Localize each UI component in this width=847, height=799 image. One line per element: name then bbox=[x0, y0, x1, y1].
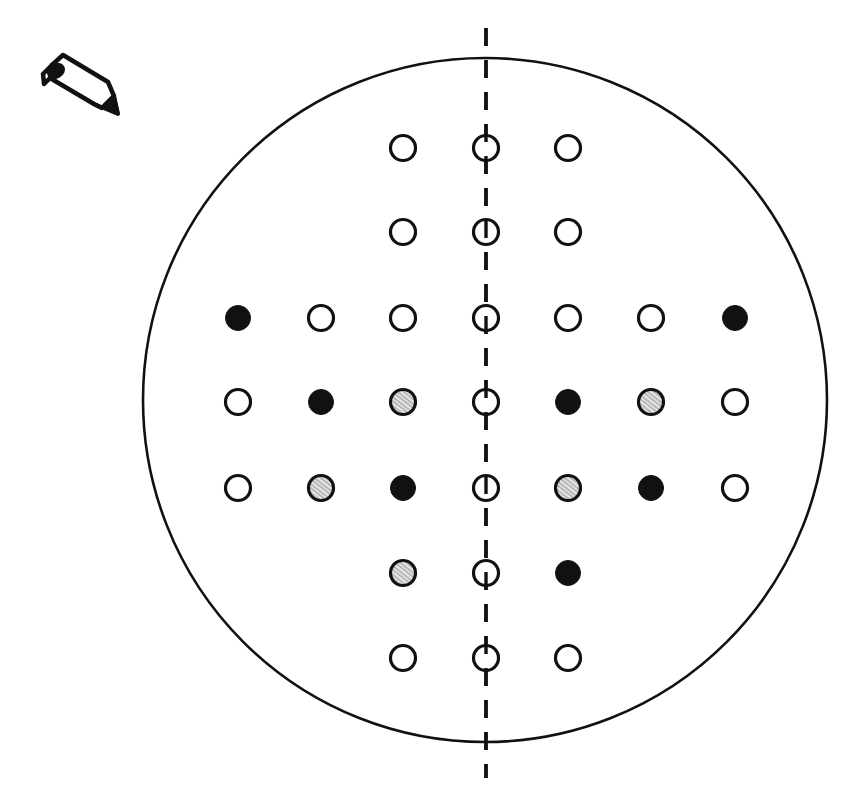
wafer-map-diagram bbox=[0, 0, 847, 799]
die-marker-filled-r5c4[interactable] bbox=[556, 561, 581, 586]
die-marker-hatched-r5c2[interactable] bbox=[391, 561, 416, 586]
die-marker-open-r0c4[interactable] bbox=[556, 136, 581, 161]
die-marker-open-r3c6[interactable] bbox=[723, 390, 748, 415]
die-marker-open-r6c4[interactable] bbox=[556, 646, 581, 671]
pencil-icon bbox=[43, 55, 118, 114]
die-marker-open-r1c4[interactable] bbox=[556, 220, 581, 245]
die-marker-filled-r2c0[interactable] bbox=[226, 306, 251, 331]
pencil-barrel bbox=[50, 55, 114, 108]
die-marker-open-r1c2[interactable] bbox=[391, 220, 416, 245]
die-marker-filled-r3c1[interactable] bbox=[309, 390, 334, 415]
die-marker-open-r0c2[interactable] bbox=[391, 136, 416, 161]
die-marker-hatched-r3c5[interactable] bbox=[639, 390, 664, 415]
die-marker-hatched-r4c1[interactable] bbox=[309, 476, 334, 501]
die-marker-open-r4c6[interactable] bbox=[723, 476, 748, 501]
die-marker-open-r4c0[interactable] bbox=[226, 476, 251, 501]
die-marker-filled-r4c5[interactable] bbox=[639, 476, 664, 501]
die-marker-open-r3c0[interactable] bbox=[226, 390, 251, 415]
die-marker-filled-r3c4[interactable] bbox=[556, 390, 581, 415]
die-marker-filled-r2c6[interactable] bbox=[723, 306, 748, 331]
die-marker-open-r2c4[interactable] bbox=[556, 306, 581, 331]
figure-page bbox=[0, 0, 847, 799]
die-marker-hatched-r4c4[interactable] bbox=[556, 476, 581, 501]
die-marker-open-r6c2[interactable] bbox=[391, 646, 416, 671]
die-marker-open-r2c1[interactable] bbox=[309, 306, 334, 331]
die-marker-filled-r4c2[interactable] bbox=[391, 476, 416, 501]
die-marker-open-r2c5[interactable] bbox=[639, 306, 664, 331]
marker-grid bbox=[226, 28, 748, 778]
die-marker-open-r2c2[interactable] bbox=[391, 306, 416, 331]
die-marker-hatched-r3c2[interactable] bbox=[391, 390, 416, 415]
